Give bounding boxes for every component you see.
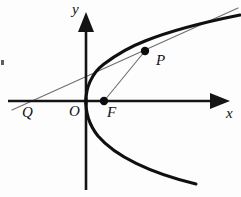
figure-canvas	[0, 0, 241, 197]
tangent-point-label: P	[156, 53, 165, 68]
scan-speck	[1, 60, 4, 65]
origin-label: O	[69, 104, 80, 119]
tangent-x-intercept-label: Q	[22, 105, 33, 120]
tangent-point-dot	[141, 47, 149, 55]
y-axis-arrow-icon	[78, 12, 94, 32]
x-axis-label: x	[226, 106, 233, 121]
y-axis-label: y	[72, 2, 79, 17]
parabola-figure: y x O F P Q	[0, 0, 241, 197]
focus-label: F	[107, 105, 116, 120]
parabola-lower-branch	[86, 99, 196, 184]
